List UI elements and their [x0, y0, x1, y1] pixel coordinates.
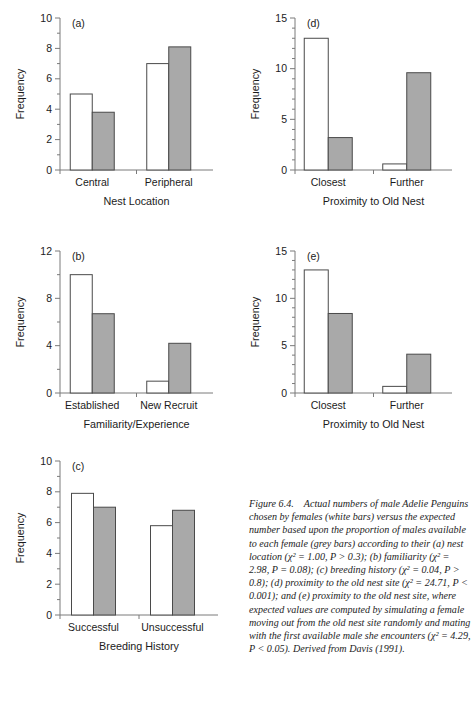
- x-axis-category-label: Central: [75, 176, 109, 188]
- bar-actual: [72, 493, 94, 615]
- x-axis-title: Proximity to Old Nest: [323, 418, 424, 430]
- figure-caption: Figure 6.4. Actual numbers of male Adeli…: [249, 497, 471, 655]
- bar-expected: [328, 138, 352, 170]
- y-axis-title: Frequency: [14, 296, 26, 348]
- x-axis-title: Breeding History: [99, 640, 179, 652]
- chart-svg-b: 04812Frequency(b)EstablishedNew RecruitF…: [8, 239, 233, 451]
- chart-panel-e: 051015Frequency(e)ClosestFurtherProximit…: [240, 239, 468, 451]
- y-axis-tick-label: 2: [46, 133, 52, 145]
- y-axis-tick-label: 8: [46, 292, 52, 304]
- bar-expected: [92, 112, 114, 170]
- bar-expected: [328, 313, 352, 393]
- bar-expected: [169, 47, 191, 170]
- x-axis-category-label: Closest: [311, 399, 346, 411]
- x-axis-category-label: Successful: [68, 621, 119, 633]
- panel-label: (b): [72, 250, 85, 262]
- bar-expected: [169, 343, 191, 393]
- y-axis-tick-label: 10: [275, 62, 287, 74]
- y-axis-tick-label: 15: [275, 12, 287, 24]
- y-axis-tick-label: 0: [281, 164, 287, 176]
- bar-actual: [304, 38, 328, 170]
- chart-svg-e: 051015Frequency(e)ClosestFurtherProximit…: [240, 239, 468, 451]
- y-axis-tick-label: 10: [40, 12, 52, 24]
- x-axis-category-label: Peripheral: [145, 176, 193, 188]
- y-axis-tick-label: 4: [46, 103, 52, 115]
- y-axis-title: Frequency: [249, 68, 261, 120]
- x-axis-category-label: Established: [65, 399, 119, 411]
- x-axis-category-label: New Recruit: [140, 399, 197, 411]
- y-axis-tick-label: 0: [46, 387, 52, 399]
- panel-label: (c): [72, 460, 84, 472]
- bar-expected: [94, 507, 116, 615]
- y-axis-tick-label: 0: [46, 609, 52, 621]
- y-axis-tick-label: 0: [281, 387, 287, 399]
- figure-caption-text: Figure 6.4. Actual numbers of male Adeli…: [249, 498, 470, 654]
- bar-actual: [70, 275, 92, 393]
- y-axis-tick-label: 15: [275, 245, 287, 257]
- y-axis-tick-label: 5: [281, 113, 287, 125]
- y-axis-tick-label: 8: [46, 485, 52, 497]
- bar-expected: [407, 73, 431, 170]
- x-axis-category-label: Unsuccessful: [141, 621, 203, 633]
- bar-actual: [304, 270, 328, 393]
- y-axis-tick-label: 6: [46, 516, 52, 528]
- bar-actual: [383, 164, 407, 170]
- y-axis-tick-label: 8: [46, 42, 52, 54]
- figure-6-4: 0246810Frequency(a)CentralPeripheralNest…: [0, 0, 473, 714]
- panel-label: (e): [307, 250, 320, 262]
- bar-actual: [147, 64, 169, 170]
- y-axis-tick-label: 5: [281, 339, 287, 351]
- y-axis-tick-label: 12: [40, 245, 52, 257]
- chart-svg-d: 051015Frequency(d)ClosestFurtherProximit…: [240, 6, 468, 231]
- bar-expected: [173, 510, 195, 615]
- chart-panel-d: 051015Frequency(d)ClosestFurtherProximit…: [240, 6, 468, 231]
- y-axis-tick-label: 4: [46, 339, 52, 351]
- x-axis-title: Familiarity/Experience: [83, 418, 189, 430]
- y-axis-title: Frequency: [249, 296, 261, 348]
- bar-expected: [92, 314, 114, 393]
- x-axis-title: Nest Location: [103, 195, 169, 207]
- x-axis-category-label: Further: [390, 399, 424, 411]
- panel-label: (d): [307, 17, 320, 29]
- chart-panel-c: 0246810Frequency(c)SuccessfulUnsuccessfu…: [8, 449, 233, 674]
- x-axis-category-label: Closest: [311, 176, 346, 188]
- bar-actual: [147, 381, 169, 393]
- x-axis-category-label: Further: [390, 176, 424, 188]
- y-axis-tick-label: 10: [275, 292, 287, 304]
- y-axis-tick-label: 4: [46, 547, 52, 559]
- chart-svg-a: 0246810Frequency(a)CentralPeripheralNest…: [8, 6, 233, 231]
- y-axis-tick-label: 2: [46, 578, 52, 590]
- y-axis-tick-label: 10: [40, 455, 52, 467]
- x-axis-title: Proximity to Old Nest: [323, 195, 424, 207]
- panel-label: (a): [72, 17, 85, 29]
- bar-actual: [383, 386, 407, 393]
- chart-panel-a: 0246810Frequency(a)CentralPeripheralNest…: [8, 6, 233, 231]
- bar-actual: [151, 526, 173, 615]
- y-axis-title: Frequency: [14, 68, 26, 120]
- chart-panel-b: 04812Frequency(b)EstablishedNew RecruitF…: [8, 239, 233, 451]
- chart-svg-c: 0246810Frequency(c)SuccessfulUnsuccessfu…: [8, 449, 233, 674]
- bar-expected: [407, 354, 431, 393]
- y-axis-title: Frequency: [14, 512, 26, 564]
- y-axis-tick-label: 0: [46, 164, 52, 176]
- bar-actual: [70, 94, 92, 170]
- y-axis-tick-label: 6: [46, 72, 52, 84]
